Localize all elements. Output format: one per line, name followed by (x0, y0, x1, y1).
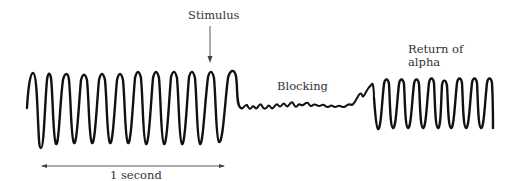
stimulus-label: Stimulus (188, 9, 239, 22)
eeg-trace-svg (0, 0, 515, 181)
stimulus-arrowhead-icon (208, 56, 213, 63)
alpha-wave-trace (27, 71, 241, 148)
eeg-figure: Stimulus Blocking Return of alpha 1 seco… (0, 0, 515, 181)
return-alpha-trace (374, 79, 493, 130)
blocking-label: Blocking (277, 80, 328, 93)
time-scale-label: 1 second (110, 169, 162, 181)
return-of-alpha-label-line2: alpha (408, 56, 440, 69)
time-scale-left-arrowhead-icon (41, 164, 47, 168)
time-scale-right-arrowhead-icon (219, 164, 225, 168)
